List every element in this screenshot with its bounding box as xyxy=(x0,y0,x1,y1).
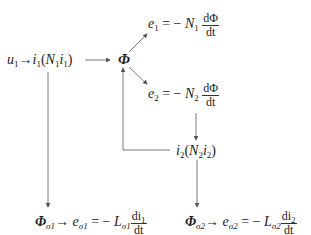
leak1-fraction: di1dt xyxy=(131,210,147,235)
i2-node: i2(N2i2) xyxy=(176,144,216,158)
leak1-equation: Φσ1→ eσ1 = − Lσ1di1dt xyxy=(35,210,147,235)
leak2-equation: Φσ2→ eσ2 = − Lσ2di2dt xyxy=(185,210,297,235)
e1-fraction: dΦdt xyxy=(202,12,219,38)
arrow-phi-to-e2 xyxy=(129,67,147,84)
arrow-i2-to-phi xyxy=(123,68,170,150)
phi-node: Φ xyxy=(118,52,130,67)
e1-equation: e1 = − N1 dΦdt xyxy=(148,12,219,38)
input-node: u1→i1(N1i1) xyxy=(7,53,72,67)
e2-equation: e2 = − N2 dΦdt xyxy=(148,82,219,108)
arrow-phi-to-e1 xyxy=(129,34,147,52)
e2-fraction: dΦdt xyxy=(202,82,219,108)
leak2-fraction: di2dt xyxy=(281,210,297,235)
